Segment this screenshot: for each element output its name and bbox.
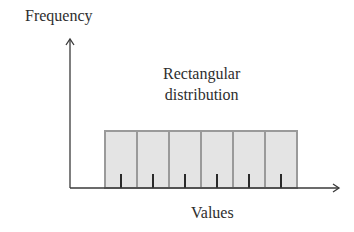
distribution-diagram	[0, 0, 354, 232]
y-axis	[66, 39, 74, 188]
bars	[105, 131, 297, 188]
diagram-title: Rectangular distribution	[163, 63, 240, 105]
x-axis-label: Values	[191, 203, 234, 223]
y-axis-label: Frequency	[25, 6, 93, 26]
title-line-1: Rectangular	[163, 63, 240, 84]
title-line-2: distribution	[163, 84, 240, 105]
